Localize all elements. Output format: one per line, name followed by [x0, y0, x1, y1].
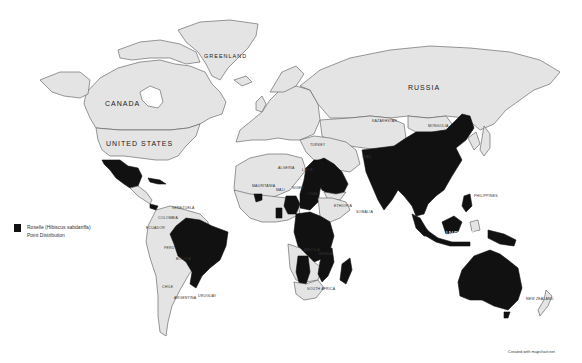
region-iceland: [234, 76, 252, 86]
label-chile: CHILE: [162, 285, 173, 289]
region-tasmania: [504, 312, 510, 318]
label-peru: PERU: [164, 246, 175, 250]
label-zambia: ZAMBIA: [318, 252, 332, 256]
label-greenland: GREENLAND: [204, 53, 247, 59]
label-philippines: PHILIPPINES: [474, 194, 498, 198]
world-map: [0, 0, 582, 363]
label-niger: NIGER: [292, 186, 304, 190]
label-south-africa: SOUTH AFRICA: [307, 287, 335, 291]
region-australia: [458, 250, 522, 310]
label-canada: CANADA: [105, 100, 140, 107]
region-madagascar: [340, 258, 352, 284]
label-libya: LIBYA: [302, 168, 313, 172]
label-mongolia: MONGOLIA: [428, 124, 448, 128]
region-new-guinea: [488, 230, 516, 246]
label-chad: CHAD: [308, 192, 319, 196]
label-mali: MALI: [276, 188, 285, 192]
label-iran: IRAN: [362, 155, 371, 159]
label-new-zealand: NEW ZEALAND: [526, 297, 553, 301]
label-argentina: ARGENTINA: [174, 296, 196, 300]
label-algeria: ALGERIA: [278, 166, 295, 170]
label-uruguay: URUGUAY: [198, 294, 217, 298]
region-panama: [150, 204, 158, 210]
label-ethiopia: ETHIOPIA: [334, 204, 352, 208]
legend-subtitle: Point Distribution: [27, 232, 65, 238]
region-philippines: [462, 194, 472, 212]
label-russia: RUSSIA: [408, 84, 440, 91]
label-united-states: UNITED STATES: [106, 140, 173, 147]
label-bolivia: BOLIVIA: [176, 257, 191, 261]
label-ecuador: ECUADOR: [146, 226, 165, 230]
region-europe: [236, 86, 320, 142]
region-alaska: [40, 72, 90, 98]
label-mauritania: MAURITANIA: [252, 184, 275, 188]
legend-title: Roselle (Hibiscus sabdariffa): [27, 224, 91, 230]
region-japan: [480, 126, 490, 156]
label-colombia: COLOMBIA: [158, 216, 178, 220]
label-somalia: SOMALIA: [356, 210, 373, 214]
region-new-zealand: [538, 290, 552, 316]
label-indonesia: INDONESIA: [446, 230, 488, 236]
label-turkey: TURKEY: [310, 143, 325, 147]
label-venezuela: VENEZUELA: [172, 206, 195, 210]
region-mexico: [102, 160, 142, 188]
map-credit: Created with mapchart.net: [508, 349, 555, 354]
label-kazakhstan: KAZAKHSTAN: [372, 119, 397, 123]
region-central-america: [130, 186, 152, 204]
region-cuba: [148, 178, 166, 184]
legend-swatch: [14, 224, 21, 232]
region-ghana: [276, 208, 282, 218]
